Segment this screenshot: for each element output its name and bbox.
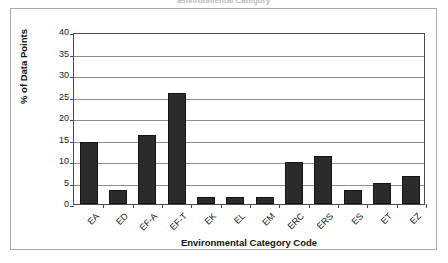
x-axis-tick <box>426 204 427 208</box>
x-axis-label: Environmental Category Code <box>73 237 425 248</box>
gridline <box>74 77 424 78</box>
bar <box>256 197 274 204</box>
bar <box>109 190 127 204</box>
gridline <box>74 185 424 186</box>
bar <box>168 93 186 204</box>
y-axis-tick-label: 10 <box>23 157 69 166</box>
y-axis-tick-label: 35 <box>23 50 69 59</box>
bar <box>402 176 420 204</box>
y-axis-tick <box>70 142 74 143</box>
bar <box>80 142 98 204</box>
y-axis-tick <box>70 163 74 164</box>
y-axis-tick <box>70 185 74 186</box>
bar <box>138 135 156 204</box>
bar <box>314 156 332 204</box>
bar <box>373 183 391 204</box>
bar <box>226 197 244 204</box>
plot-area <box>73 33 425 205</box>
y-axis-tick <box>70 34 74 35</box>
chart-frame: % of Data Points 0510152025303540 EAEDEF… <box>10 8 437 250</box>
gridline <box>74 99 424 100</box>
clipped-chart-title-text: Environmental Category <box>178 0 270 5</box>
bar <box>344 190 362 204</box>
chart-figure: Environmental Category % of Data Points … <box>0 0 448 263</box>
y-axis-tick <box>70 99 74 100</box>
bar <box>197 197 215 204</box>
gridline <box>74 163 424 164</box>
y-axis-tick-labels: 0510152025303540 <box>19 33 69 205</box>
y-axis-tick <box>70 56 74 57</box>
gridline <box>74 120 424 121</box>
gridline <box>74 56 424 57</box>
gridline <box>74 142 424 143</box>
bar <box>285 162 303 204</box>
x-axis-tick-labels: EAEDEF-AEF-TEKELEMERCERSESETEZ <box>73 207 425 241</box>
y-axis-tick-label: 5 <box>23 179 69 188</box>
y-axis-tick <box>70 77 74 78</box>
y-axis-tick-label: 15 <box>23 136 69 145</box>
y-axis-tick-label: 25 <box>23 93 69 102</box>
y-axis-tick-label: 30 <box>23 71 69 80</box>
y-axis-tick-label: 20 <box>23 114 69 123</box>
y-axis-tick <box>70 120 74 121</box>
y-axis-tick-label: 40 <box>23 28 69 37</box>
y-axis-tick-label: 0 <box>23 200 69 209</box>
clipped-chart-title: Environmental Category <box>0 0 448 7</box>
